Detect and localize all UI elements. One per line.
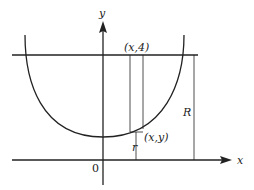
x-axis-label: x (237, 154, 244, 167)
top-point-label: (x,4) (124, 41, 149, 54)
small-radius-label: r (132, 141, 138, 154)
curve-point-label: (x,y) (144, 131, 169, 144)
origin-label: 0 (92, 162, 99, 175)
diagram-canvas: y x 0 (x,4) (x,y) r R (0, 0, 254, 190)
x-axis (12, 156, 232, 164)
y-axis-label: y (98, 7, 106, 20)
big-radius-label: R (182, 106, 191, 119)
u-curve (25, 35, 184, 137)
